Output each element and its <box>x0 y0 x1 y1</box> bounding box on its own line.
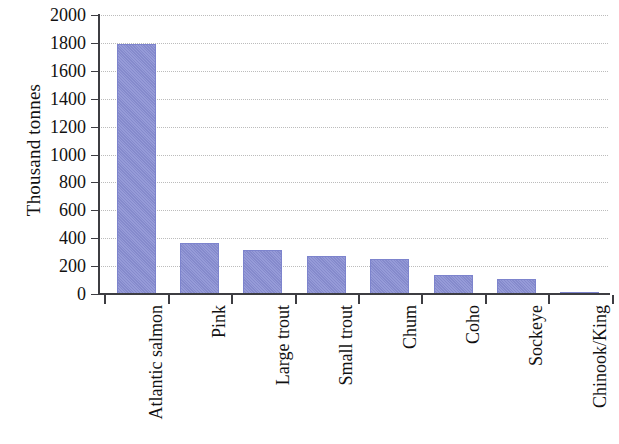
y-axis-tick <box>91 182 99 183</box>
plot-area <box>99 15 608 294</box>
y-axis-tick-label: 200 <box>30 257 86 275</box>
x-axis-tick <box>231 295 233 304</box>
y-axis-tick <box>91 294 99 295</box>
gridline <box>99 266 608 268</box>
y-axis-tick-label: 1200 <box>30 118 86 136</box>
gridlines <box>99 15 608 294</box>
x-axis-line <box>98 293 610 295</box>
y-axis-tick <box>91 127 99 128</box>
gridline <box>99 15 608 17</box>
y-axis-tick-label: 800 <box>30 173 86 191</box>
x-axis-label: Small trout <box>335 305 357 386</box>
bar <box>370 259 409 294</box>
x-axis-label: Pink <box>208 305 230 338</box>
bar <box>497 279 536 294</box>
x-axis-label: Coho <box>462 305 484 344</box>
y-axis-tick <box>91 266 99 267</box>
y-axis-tick <box>91 155 99 156</box>
x-axis-tick <box>548 295 550 304</box>
y-axis-tick-label: 2000 <box>30 6 86 24</box>
x-axis-label: Chum <box>399 305 421 349</box>
x-axis-tick <box>485 295 487 304</box>
y-axis-tick-label: 1800 <box>30 34 86 52</box>
gridline <box>99 210 608 212</box>
x-axis-tick <box>295 295 297 304</box>
y-axis-tick <box>91 43 99 44</box>
x-axis-tick <box>421 295 423 304</box>
bar <box>180 243 219 294</box>
y-axis-tick-label: 400 <box>30 229 86 247</box>
y-axis-tick <box>91 15 99 16</box>
x-axis-label: Chinook/King <box>589 305 611 408</box>
y-axis-tick <box>91 210 99 211</box>
gridline <box>99 238 608 240</box>
x-axis-label: Sockeye <box>525 305 547 366</box>
x-axis-tick <box>104 295 106 304</box>
x-axis-tick <box>358 295 360 304</box>
gridline <box>99 99 608 101</box>
gridline <box>99 155 608 157</box>
y-axis-tick <box>91 238 99 239</box>
y-axis-tick <box>91 71 99 72</box>
gridline <box>99 43 608 45</box>
bar <box>243 250 282 294</box>
bar-chart: Thousand tonnes 200018001600140012001000… <box>0 0 619 444</box>
y-axis-tick-label: 1600 <box>30 62 86 80</box>
gridline <box>99 71 608 73</box>
y-axis-tick <box>91 99 99 100</box>
x-axis-tick <box>168 295 170 304</box>
x-axis-tick <box>612 295 614 304</box>
bar <box>434 275 473 294</box>
x-axis-label: Atlantic salmon <box>145 305 167 419</box>
y-axis-tick-label: 0 <box>30 285 86 303</box>
gridline <box>99 182 608 184</box>
y-axis-tick-label: 1000 <box>30 146 86 164</box>
x-axis-label: Large trout <box>272 305 294 385</box>
bar <box>117 44 156 294</box>
bar <box>307 256 346 294</box>
gridline <box>99 127 608 129</box>
y-axis-tick-label: 1400 <box>30 90 86 108</box>
y-axis-tick-label: 600 <box>30 201 86 219</box>
